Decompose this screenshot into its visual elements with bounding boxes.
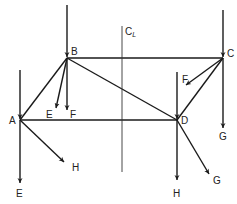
vector-c-f: [186, 58, 223, 85]
force-label-c-g: G: [219, 131, 227, 142]
force-label-a-e: E: [16, 188, 23, 199]
vector-d-g: [177, 120, 209, 174]
member-cd: [177, 58, 223, 120]
node-label-a: A: [9, 115, 16, 126]
node-label-d: D: [181, 115, 188, 126]
force-label-d-g: G: [213, 175, 221, 186]
force-label-b-f: F: [70, 109, 76, 120]
force-label-d-h: H: [173, 188, 180, 199]
force-label-a-h: H: [72, 162, 79, 173]
force-label-b-e: E: [46, 109, 53, 120]
node-label-c: C: [227, 48, 234, 59]
centerline-label: CL: [125, 26, 136, 38]
force-diagram: B C A D CL E F F G E H H G: [0, 0, 237, 204]
force-label-c-f: F: [182, 74, 188, 85]
node-label-b: B: [71, 46, 78, 57]
vector-a-h: [20, 120, 64, 162]
